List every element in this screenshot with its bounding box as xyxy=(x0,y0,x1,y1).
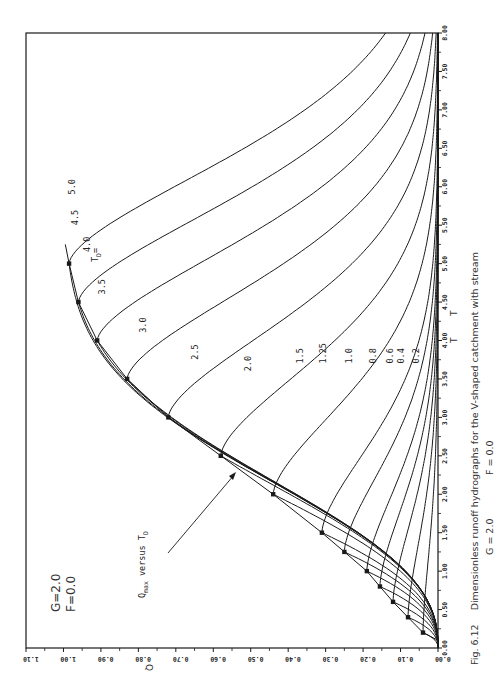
t-tick-label: 4.00 xyxy=(441,333,449,349)
q-tick-label: 0.70 xyxy=(173,655,189,663)
curve-label: 3.0 xyxy=(138,317,148,332)
q-axis: 0.000.100.200.300.400.500.600.700.800.90… xyxy=(23,648,451,663)
qmax-marker xyxy=(378,584,382,588)
curve-label: 3.5 xyxy=(97,279,107,294)
t-tick-label: 4.50 xyxy=(441,294,449,310)
qmax-marker xyxy=(421,630,425,634)
qmax-marker xyxy=(365,569,369,573)
t-tick-label: 8.00 xyxy=(441,25,449,41)
curve-label: 0.2 xyxy=(411,348,421,363)
t-tick-label: 3.50 xyxy=(441,371,449,387)
hydrograph-line xyxy=(168,33,438,648)
hydrograph-line xyxy=(393,33,438,648)
hydrograph-line xyxy=(345,33,439,648)
curve-label: 2.0 xyxy=(243,356,253,371)
qmax-annotation: Qmax versus TD xyxy=(137,531,150,598)
t-tick-label: 6.50 xyxy=(441,140,449,156)
curve-label: 0.4 xyxy=(396,348,406,363)
curve-label: 1.25 xyxy=(318,343,328,363)
hydrograph-line xyxy=(273,33,438,648)
hydrograph-line xyxy=(322,33,438,648)
svg-text:Qmax versus TD: Qmax versus TD xyxy=(137,531,150,598)
t-tick-label: 2.00 xyxy=(441,486,449,502)
qmax-marker xyxy=(271,492,275,496)
q-axis-label: Q xyxy=(144,664,154,671)
t-tick-label: 0.00 xyxy=(441,640,449,656)
qmax-marker xyxy=(67,261,71,265)
t-tick-label: 1.50 xyxy=(441,525,449,541)
caption-label: Fig. 6.12 xyxy=(469,624,480,665)
caption-g: G = 2.0 xyxy=(484,519,495,555)
qmax-marker xyxy=(406,615,410,619)
svg-text:TD=: TD= xyxy=(90,248,103,262)
qmax-marker xyxy=(95,338,99,342)
figure-caption: Fig. 6.12Dimensionless runoff hydrograph… xyxy=(469,252,495,665)
param-g-label: G=2.0 xyxy=(49,574,63,612)
qmax-line xyxy=(65,244,438,640)
q-tick-label: 0.90 xyxy=(98,655,114,663)
t-tick-label: 5.00 xyxy=(441,256,449,272)
qmax-arrow xyxy=(168,472,236,553)
curve-label: 2.5 xyxy=(190,344,200,359)
q-tick-label: 0.60 xyxy=(210,655,226,663)
curve-label: 1.5 xyxy=(295,348,305,363)
qmax-marker xyxy=(342,550,346,554)
t-tick-label: 7.50 xyxy=(441,64,449,80)
t-axis: 0.000.501.001.502.002.503.003.504.004.50… xyxy=(438,25,449,656)
t-tick-label: 2.50 xyxy=(441,448,449,464)
qmax-curve xyxy=(65,244,438,640)
curve-label: 0.8 xyxy=(368,348,378,363)
caption-text: Dimensionless runoff hydrographs for the… xyxy=(469,252,480,610)
q-tick-label: 0.10 xyxy=(397,655,413,663)
hydrograph-curves xyxy=(69,33,438,648)
curve-label: 0.6 xyxy=(385,348,395,363)
t-tick-label: 3.00 xyxy=(441,409,449,425)
qmax-marker xyxy=(219,454,223,458)
t-axis-label-2: T xyxy=(449,310,459,317)
q-tick-label: 0.80 xyxy=(135,655,151,663)
q-tick-label: 1.00 xyxy=(60,655,76,663)
qmax-marker xyxy=(166,415,170,419)
curve-label: 5.0 xyxy=(67,179,77,194)
t-tick-label: 6.00 xyxy=(441,179,449,195)
curve-label: 4.5 xyxy=(70,210,80,225)
q-tick-label: 0.30 xyxy=(323,655,339,663)
plot-frame xyxy=(26,33,438,648)
qmax-marker xyxy=(76,300,80,304)
q-tick-label: 0.40 xyxy=(285,655,301,663)
t-axis-label-1: T xyxy=(449,337,459,344)
curve-labels: 0.20.40.60.81.01.251.52.02.53.03.54.04.5… xyxy=(67,179,422,371)
caption-f: F = 0.0 xyxy=(484,440,495,475)
param-f-label: F=0.0 xyxy=(64,576,78,612)
td-label: TD= xyxy=(90,248,103,262)
qmax-marker xyxy=(125,377,129,381)
t-tick-label: 5.50 xyxy=(441,217,449,233)
q-tick-label: 0.20 xyxy=(360,655,376,663)
t-tick-label: 7.00 xyxy=(441,102,449,118)
hydrograph-chart: 0.000.100.200.300.400.500.600.700.800.90… xyxy=(0,0,503,695)
q-tick-label: 0.50 xyxy=(248,655,264,663)
qmax-marker xyxy=(320,530,324,534)
qmax-marker xyxy=(391,600,395,604)
svg-text:Fig. 6.12Dimensionless runoff: Fig. 6.12Dimensionless runoff hydrograph… xyxy=(469,252,480,665)
t-tick-label: 1.00 xyxy=(441,563,449,579)
hydrograph-line xyxy=(408,33,438,648)
t-tick-label: 0.50 xyxy=(441,602,449,618)
curve-label: 1.0 xyxy=(344,348,354,363)
q-tick-label: 1.10 xyxy=(23,655,39,663)
